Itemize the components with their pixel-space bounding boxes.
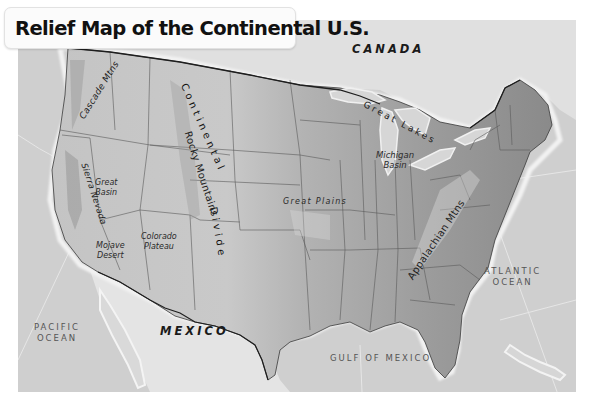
pacific-line1: PACIFIC: [34, 322, 80, 333]
label-colorado-plateau: Colorado Plateau: [141, 232, 177, 251]
relief-map: CANADA MEXICO PACIFIC OCEAN ATLANTIC OCE…: [18, 20, 576, 392]
colorado-plateau-line1: Colorado: [141, 232, 177, 242]
label-mexico: MEXICO: [160, 326, 229, 338]
mojave-desert-line1: Mojave: [96, 241, 125, 251]
great-basin-line2: Basin: [95, 188, 117, 198]
label-great-plains: Great Plains: [283, 197, 347, 207]
label-pacific-ocean: PACIFIC OCEAN: [34, 322, 80, 343]
atlantic-line2: OCEAN: [484, 277, 541, 288]
label-mojave-desert: Mojave Desert: [96, 241, 125, 260]
label-gulf-of-mexico: GULF OF MEXICO: [330, 353, 431, 364]
label-michigan-basin: Michigan Basin: [376, 150, 414, 170]
colorado-plateau-line2: Plateau: [141, 242, 177, 252]
title-banner: Relief Map of the Continental U.S.: [4, 7, 296, 49]
label-atlantic-ocean: ATLANTIC OCEAN: [484, 266, 541, 287]
great-basin-line1: Great: [95, 178, 117, 188]
label-canada: CANADA: [352, 44, 424, 56]
pacific-line2: OCEAN: [34, 333, 80, 344]
mojave-desert-line2: Desert: [96, 251, 125, 261]
michigan-basin-line1: Michigan: [376, 150, 414, 160]
atlantic-line1: ATLANTIC: [484, 266, 541, 277]
label-great-basin: Great Basin: [95, 178, 117, 197]
page-title: Relief Map of the Continental U.S.: [15, 17, 369, 40]
michigan-basin-line2: Basin: [376, 160, 414, 170]
